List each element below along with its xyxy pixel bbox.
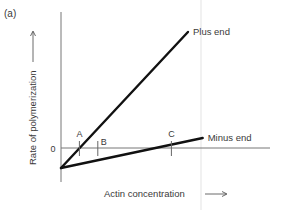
marker-label-a: A xyxy=(76,129,82,139)
y-zero-label: 0 xyxy=(50,144,55,154)
y-axis-arrow-icon xyxy=(31,31,36,62)
actin-polymerization-diagram: (a) 0 Rate of polymerization Actin conce… xyxy=(0,0,284,210)
marker-label-c: C xyxy=(168,129,175,139)
x-axis-arrow-icon xyxy=(205,192,227,197)
marker-label-b: B xyxy=(101,137,107,147)
series-label-plus-end: Plus end xyxy=(193,26,230,37)
series-line-minus-end xyxy=(61,138,203,168)
panel-label: (a) xyxy=(4,8,16,19)
y-axis-label: Rate of polymerization xyxy=(27,70,38,165)
x-axis-label: Actin concentration xyxy=(104,188,185,199)
series-label-minus-end: Minus end xyxy=(208,132,252,143)
